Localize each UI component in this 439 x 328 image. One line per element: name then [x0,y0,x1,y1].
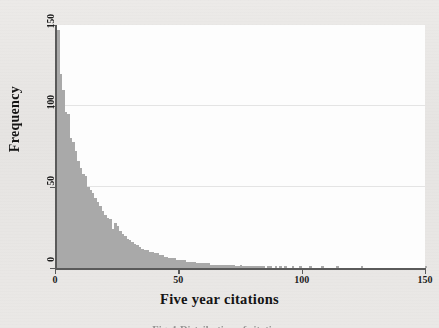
y-axis-tick-label: 0 [46,257,66,262]
x-axis-title: Five year citations [0,291,439,308]
x-axis-tick-label: 150 [405,274,439,285]
x-axis-line [55,268,426,270]
y-axis-tick-label: 50 [46,176,66,186]
y-axis-title: Frequency [7,86,23,152]
y-axis-tick-label: 150 [46,14,66,28]
y-axis-line [55,25,57,269]
x-axis-tick-label: 50 [158,274,198,285]
x-axis-tick-label: 100 [282,274,322,285]
x-axis-tick-label: 0 [35,274,75,285]
y-axis-tick-label: 100 [46,95,66,109]
plot-area [55,25,425,268]
figure-caption: Fig. 1 Distribution of citations [0,319,439,328]
figure-histogram: 050100150 050100150 Frequency Five year … [0,0,439,328]
y-axis-tick [50,187,55,188]
histogram-bars [55,25,425,268]
